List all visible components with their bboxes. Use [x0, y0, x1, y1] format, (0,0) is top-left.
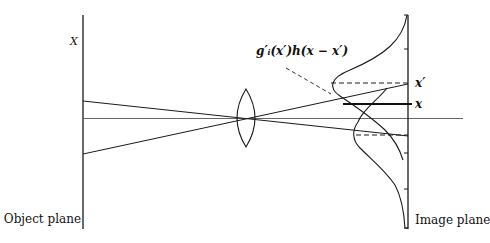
object-plane-label: Object plane — [4, 212, 81, 226]
imaging-diagram: X Object plane Image plane x′ x g′ᵢ(x′)h… — [0, 0, 490, 243]
psf-upper-curve — [333, 15, 407, 160]
psf-lower-curve — [354, 88, 408, 228]
formula-leader — [286, 68, 331, 94]
x-prime-label: x′ — [414, 76, 426, 90]
object-axis-label: X — [69, 35, 79, 48]
image-plane-label: Image plane — [415, 213, 490, 227]
formula-label: g′ᵢ(x′)h(x − x′) — [256, 44, 348, 58]
x-label: x — [414, 97, 423, 111]
